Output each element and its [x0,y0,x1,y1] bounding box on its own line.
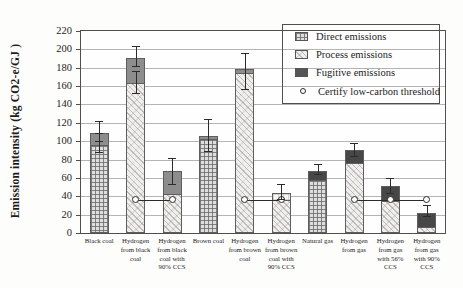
error-bar [245,53,246,89]
legend-item-threshold: Certify low-carbon threshold [283,82,439,100]
error-bar-cap [241,53,249,54]
y-tick-label: 0 [40,228,72,238]
process-emissions-swatch-icon [295,50,308,59]
error-bar-cap [277,184,285,185]
legend-label: Process emissions [316,49,392,60]
legend-item-direct: Direct emissions [283,27,439,45]
error-bar [99,121,100,141]
y-tick-label: 100 [40,136,72,146]
error-bar-cap [350,156,358,157]
segment-direct-emissions [308,180,327,233]
legend-label: Certify low-carbon threshold [318,86,440,97]
segment-process-emissions [235,73,254,233]
error-bar-cap [386,193,394,194]
error-bar-cap [241,89,249,90]
segment-process-emissions [417,227,436,233]
error-bar-cap [132,93,140,94]
error-bar-cap [95,121,103,122]
error-bar-cap [277,199,285,200]
y-tick-mark [76,123,80,124]
y-tick-label: 20 [40,210,72,220]
y-tick-label: 60 [40,173,72,183]
threshold-marker [423,196,430,203]
threshold-line [136,200,172,201]
segment-process-emissions [272,200,291,233]
x-tick-label: Hydrogen from gas with 90% CCS [404,237,450,272]
error-bar-cap [132,66,140,67]
y-tick-label: 180 [40,63,72,73]
bar-hydrogen-from-brown-coal [235,70,254,233]
error-bar [136,46,137,66]
y-tick-label: 140 [40,99,72,109]
bar-hydrogen-from-gas [345,151,364,233]
error-bar-cap [423,216,431,217]
threshold-marker [169,196,176,203]
segment-process-emissions [126,83,145,233]
error-bar [390,178,391,193]
y-tick-label: 200 [40,44,72,54]
y-tick-label: 80 [40,155,72,165]
y-axis-title: Emission intensity (kg CO2-e/GJ ) [9,44,21,219]
error-bar-cap [423,205,431,206]
error-bar-cap [204,151,212,152]
threshold-marker [387,196,394,203]
error-bar-cap [204,119,212,120]
legend: Direct emissions Process emissions Fugit… [282,24,440,104]
direct-emissions-swatch-icon [295,32,308,41]
y-tick-mark [76,233,80,234]
error-bar [354,143,355,156]
y-tick-mark [76,68,80,69]
y-tick-mark [76,86,80,87]
error-bar-cap [95,141,103,142]
y-tick-mark [76,160,80,161]
error-bar-cap [314,164,322,165]
error-bar-cap [132,71,140,72]
error-bar [318,164,319,174]
y-tick-mark [76,215,80,216]
y-tick-label: 220 [40,26,72,36]
fugitive-emissions-swatch-icon [295,68,308,77]
error-bar [281,184,282,199]
error-bar [172,158,173,185]
error-bar-cap [350,143,358,144]
threshold-marker [351,196,358,203]
segment-process-emissions [381,201,400,233]
error-bar [136,71,137,92]
error-bar [208,119,209,151]
threshold-line [245,200,281,201]
error-bar-cap [314,174,322,175]
y-tick-mark [76,104,80,105]
y-tick-label: 160 [40,81,72,91]
y-tick-mark [76,141,80,142]
error-bar-cap [386,178,394,179]
y-tick-mark [76,196,80,197]
bar-natural-gas [308,172,327,233]
error-bar [427,205,428,217]
plot-area: Direct emissions Process emissions Fugit… [80,30,446,234]
error-bar-cap [168,184,176,185]
segment-direct-emissions [199,139,218,233]
threshold-marker-icon [297,86,310,97]
emission-intensity-chart: Emission intensity (kg CO2-e/GJ ) Direct… [0,0,463,288]
error-bar-cap [132,46,140,47]
segment-direct-emissions [90,145,109,233]
y-tick-label: 120 [40,118,72,128]
y-tick-mark [76,31,80,32]
legend-label: Direct emissions [316,31,386,42]
bar-hydrogen-from-gas-with-56-ccs [381,187,400,233]
y-tick-label: 40 [40,191,72,201]
legend-label: Fugitive emissions [316,67,395,78]
y-tick-mark [76,49,80,50]
error-bar-cap [168,158,176,159]
y-tick-mark [76,178,80,179]
legend-item-fugitive: Fugitive emissions [283,64,439,82]
error-bar-cap [95,152,103,153]
legend-item-process: Process emissions [283,45,439,63]
